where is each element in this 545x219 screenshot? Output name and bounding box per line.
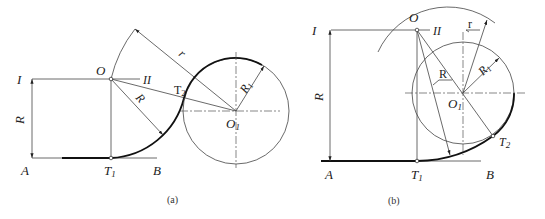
label-R-arc: R <box>439 67 447 81</box>
circle-O1-thick-arc <box>493 93 514 136</box>
dimension-r <box>135 29 236 111</box>
arc-locus <box>111 29 135 79</box>
label-I: I <box>16 72 22 87</box>
label-T2: T2 <box>499 135 511 150</box>
label-I: I <box>311 23 317 38</box>
point-O <box>109 77 113 81</box>
label-R-vertical: R <box>311 93 326 102</box>
label-B: B <box>486 167 494 182</box>
diagram-canvas: I II O A B T1 T2 O1 R R r R1 (a) <box>0 0 545 219</box>
label-O1: O1 <box>448 96 462 112</box>
label-r: r <box>176 47 189 61</box>
label-R1: R1 <box>475 60 494 79</box>
label-O: O <box>96 63 106 78</box>
label-T2: T2 <box>174 83 186 98</box>
label-A: A <box>20 163 29 178</box>
figure-a: I II O A B T1 T2 O1 R R r R1 (a) <box>12 29 289 206</box>
label-r: r <box>468 17 472 31</box>
label-T1: T1 <box>104 163 116 179</box>
label-B: B <box>153 163 161 178</box>
label-T1: T1 <box>411 167 423 183</box>
label-R-vertical: R <box>12 116 27 125</box>
dimension-R-arc <box>111 79 163 135</box>
label-A: A <box>324 167 333 182</box>
label-R1: R1 <box>236 79 255 97</box>
label-O: O <box>409 10 419 25</box>
caption-b: (b) <box>388 195 400 207</box>
label-R-arc: R <box>132 90 148 106</box>
caption-a: (a) <box>167 194 178 206</box>
point-O <box>415 28 419 32</box>
arc-R-T1-T2 <box>111 98 184 158</box>
arc-R-T1-T2 <box>417 136 493 161</box>
label-II: II <box>432 24 442 38</box>
dimension-r <box>463 20 487 93</box>
figure-b: I II O A B T1 T2 O1 R R r R1 (b) <box>311 7 527 207</box>
point-T1 <box>415 159 419 163</box>
label-O1: O1 <box>226 116 240 132</box>
point-T2 <box>491 134 495 138</box>
point-T1 <box>109 156 113 160</box>
dimension-R-arc <box>417 30 450 155</box>
label-II: II <box>142 73 152 87</box>
